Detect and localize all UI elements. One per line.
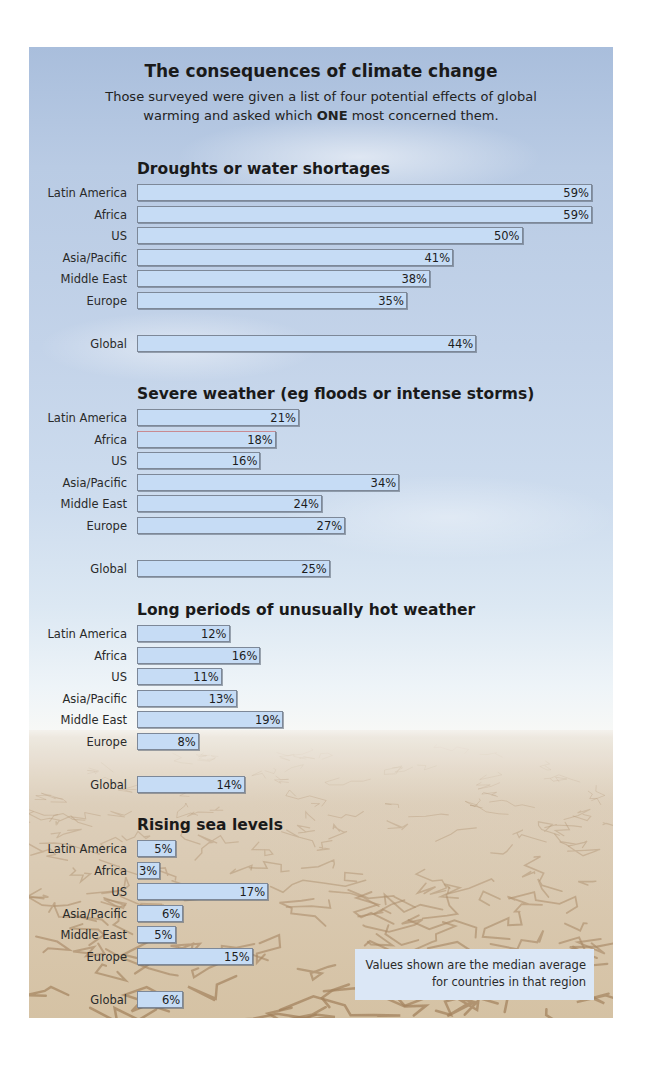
bar-value-label: 11% [193,669,219,685]
bar-global: 44% [137,335,476,352]
bar: 16% [137,647,260,664]
bar: 12% [137,625,230,642]
footnote-line-1: Values shown are the median average [355,957,586,974]
category-label: US [29,227,127,245]
bar: 59% [137,184,592,201]
bar-value-label: 6% [162,992,180,1008]
bar: 59% [137,206,592,223]
bar: 19% [137,711,283,728]
bar-value-label: 50% [494,228,520,244]
category-label: Global [29,776,127,794]
bar: 5% [137,926,176,943]
category-label: Latin America [29,409,127,427]
category-label: Latin America [29,625,127,643]
bar-value-label: 3% [139,863,157,879]
bar-value-label: 5% [154,841,172,857]
bar-value-label: 12% [201,626,227,642]
bar-value-label: 59% [563,185,589,201]
bar: 21% [137,409,299,426]
bar-value-label: 44% [448,336,474,352]
bar: 5% [137,840,176,857]
bar: 11% [137,668,222,685]
category-label: Europe [29,733,127,751]
bar-value-label: 14% [216,777,242,793]
bar: 3% [137,862,160,879]
bar-value-label: 13% [209,691,235,707]
bar: 27% [137,517,345,534]
bar: 35% [137,292,407,309]
bar-value-label: 18% [247,432,273,448]
bar-value-label: 38% [401,271,427,287]
infographic-panel: The consequences of climate change Those… [29,47,613,1018]
chart-title: The consequences of climate change [29,61,613,81]
category-label: Asia/Pacific [29,690,127,708]
bar-value-label: 35% [378,293,404,309]
bar-value-label: 59% [563,207,589,223]
category-label: Latin America [29,184,127,202]
category-label: US [29,883,127,901]
category-label: Africa [29,206,127,224]
bar-value-label: 25% [301,561,327,577]
category-label: Global [29,560,127,578]
subtitle-line-2: warming and asked which ONE most concern… [143,108,498,123]
category-label: Middle East [29,926,127,944]
bar-global: 25% [137,560,330,577]
bar-global: 14% [137,776,245,793]
category-label: US [29,452,127,470]
section-title: Rising sea levels [137,816,283,834]
category-label: Asia/Pacific [29,474,127,492]
bar-value-label: 34% [371,475,397,491]
bar-value-label: 24% [293,496,319,512]
bar-value-label: 19% [255,712,281,728]
subtitle-emphasis: ONE [317,108,348,123]
bar: 8% [137,733,199,750]
category-label: Asia/Pacific [29,905,127,923]
section-title: Droughts or water shortages [137,160,390,178]
section-title: Severe weather (eg floods or intense sto… [137,385,534,403]
bar: 6% [137,905,183,922]
bar: 34% [137,474,399,491]
category-label: Europe [29,517,127,535]
bar: 38% [137,270,430,287]
footnote-line-2: for countries in that region [355,974,586,991]
category-label: Latin America [29,840,127,858]
bar-value-label: 15% [224,949,250,965]
category-label: US [29,668,127,686]
bar: 24% [137,495,322,512]
bar-value-label: 8% [177,734,195,750]
section-title: Long periods of unusually hot weather [137,601,475,619]
subtitle-line-1: Those surveyed were given a list of four… [105,89,537,104]
category-label: Middle East [29,495,127,513]
chart-subtitle: Those surveyed were given a list of four… [29,87,613,125]
category-label: Global [29,991,127,1009]
category-label: Africa [29,647,127,665]
bar-global: 6% [137,991,183,1008]
bar: 50% [137,227,523,244]
bar: 15% [137,948,253,965]
bar-value-label: 41% [425,250,451,266]
category-label: Global [29,335,127,353]
bar: 17% [137,883,268,900]
bar-value-label: 6% [162,906,180,922]
bar-value-label: 17% [240,884,266,900]
bar: 16% [137,452,260,469]
bar: 18% [137,431,276,448]
bar-value-label: 16% [232,648,258,664]
bar-value-label: 5% [154,927,172,943]
bar-value-label: 16% [232,453,258,469]
category-label: Africa [29,431,127,449]
category-label: Asia/Pacific [29,249,127,267]
bar: 41% [137,249,453,266]
bar-value-label: 21% [270,410,296,426]
category-label: Middle East [29,711,127,729]
category-label: Middle East [29,270,127,288]
category-label: Europe [29,948,127,966]
bar-value-label: 27% [317,518,343,534]
category-label: Africa [29,862,127,880]
category-label: Europe [29,292,127,310]
bar: 13% [137,690,237,707]
footnote-box: Values shown are the median average for … [355,949,594,1000]
